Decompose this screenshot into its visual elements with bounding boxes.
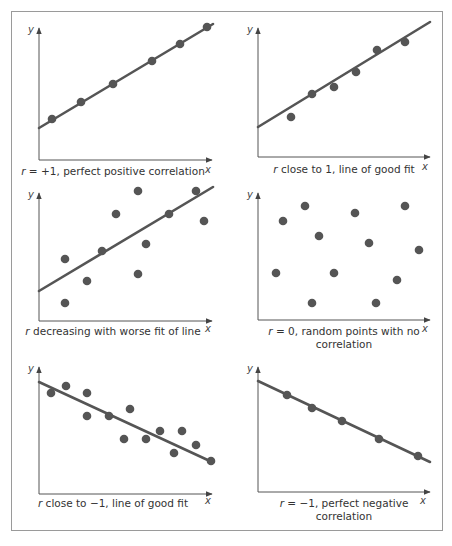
data-point xyxy=(401,38,410,47)
panel-middle-left: yxr decreasing with worse fit of line xyxy=(25,187,213,337)
panel-caption: r = −1, perfect negative xyxy=(280,497,409,509)
data-point xyxy=(134,270,143,279)
data-point xyxy=(176,40,185,49)
data-point xyxy=(200,217,209,226)
panel-caption: r close to −1, line of good fit xyxy=(38,497,188,509)
data-point xyxy=(373,46,382,55)
y-axis-label: y xyxy=(27,363,35,374)
data-point xyxy=(401,202,410,211)
y-axis-label: y xyxy=(27,24,35,35)
data-point xyxy=(109,80,118,89)
data-point xyxy=(203,23,212,32)
data-point xyxy=(283,391,292,400)
data-point xyxy=(61,299,70,308)
panel-caption: r = 0, random points with no xyxy=(268,325,420,337)
data-point xyxy=(112,210,121,219)
data-point xyxy=(279,217,288,226)
data-point xyxy=(142,435,151,444)
panel-top-right: yxr close to 1, line of good fit xyxy=(246,22,430,175)
data-point xyxy=(77,98,86,107)
data-point xyxy=(352,68,361,77)
data-point xyxy=(351,209,360,218)
panel-caption: r = +1, perfect positive correlation xyxy=(21,165,205,177)
data-point xyxy=(192,187,201,196)
y-axis-label: y xyxy=(246,363,254,374)
data-point xyxy=(393,276,402,285)
data-point xyxy=(178,427,187,436)
data-point xyxy=(61,255,70,264)
data-point xyxy=(62,382,71,391)
y-axis-label: y xyxy=(246,189,254,200)
data-point xyxy=(315,232,324,241)
panel-middle-right: yxr = 0, random points with nocorrelatio… xyxy=(246,189,430,350)
data-point xyxy=(192,441,201,450)
scatter-plots: yxr = +1, perfect positive correlationyx… xyxy=(0,0,452,546)
y-axis-label: y xyxy=(246,24,254,35)
panel-caption: r decreasing with worse fit of line xyxy=(25,325,200,337)
data-point xyxy=(165,210,174,219)
y-axis-label: y xyxy=(27,189,35,200)
panel-caption: r close to 1, line of good fit xyxy=(273,163,414,175)
x-axis-label: x xyxy=(204,164,211,175)
data-point xyxy=(142,240,151,249)
x-axis-label: x xyxy=(204,323,211,334)
panel-caption-line2: correlation xyxy=(316,338,372,350)
data-point xyxy=(308,404,317,413)
data-point xyxy=(105,412,114,421)
data-point xyxy=(287,113,296,122)
data-point xyxy=(120,435,129,444)
data-point xyxy=(156,427,165,436)
data-point xyxy=(48,115,57,124)
data-point xyxy=(330,269,339,278)
fit-line xyxy=(39,382,212,462)
fit-line xyxy=(39,24,213,128)
panel-bottom-right: yxr = −1, perfect negativecorrelation xyxy=(246,363,430,522)
data-point xyxy=(207,457,216,466)
cut-off-caption xyxy=(20,538,300,541)
data-point xyxy=(148,57,157,66)
fit-line xyxy=(39,187,213,291)
data-point xyxy=(126,405,135,414)
x-axis-label: x xyxy=(421,323,428,334)
data-point xyxy=(301,202,310,211)
data-point xyxy=(330,83,339,92)
correlation-figure: yxr = +1, perfect positive correlationyx… xyxy=(0,0,452,546)
data-point xyxy=(308,299,317,308)
data-point xyxy=(365,239,374,248)
data-point xyxy=(372,299,381,308)
data-point xyxy=(272,269,281,278)
data-point xyxy=(415,246,424,255)
data-point xyxy=(308,90,317,99)
x-axis-label: x xyxy=(204,495,211,506)
data-point xyxy=(83,277,92,286)
data-point xyxy=(170,449,179,458)
x-axis-label: x xyxy=(419,495,426,506)
data-point xyxy=(375,435,384,444)
data-point xyxy=(83,389,92,398)
panel-bottom-left: yxr close to −1, line of good fit xyxy=(27,363,215,509)
data-point xyxy=(414,452,423,461)
panel-caption-line2: correlation xyxy=(316,510,372,522)
data-point xyxy=(83,412,92,421)
data-point xyxy=(338,417,347,426)
panel-top-left: yxr = +1, perfect positive correlation xyxy=(21,23,213,177)
fit-line xyxy=(258,22,430,127)
data-point xyxy=(47,389,56,398)
x-axis-label: x xyxy=(421,161,428,172)
data-point xyxy=(134,187,143,196)
data-point xyxy=(98,247,107,256)
